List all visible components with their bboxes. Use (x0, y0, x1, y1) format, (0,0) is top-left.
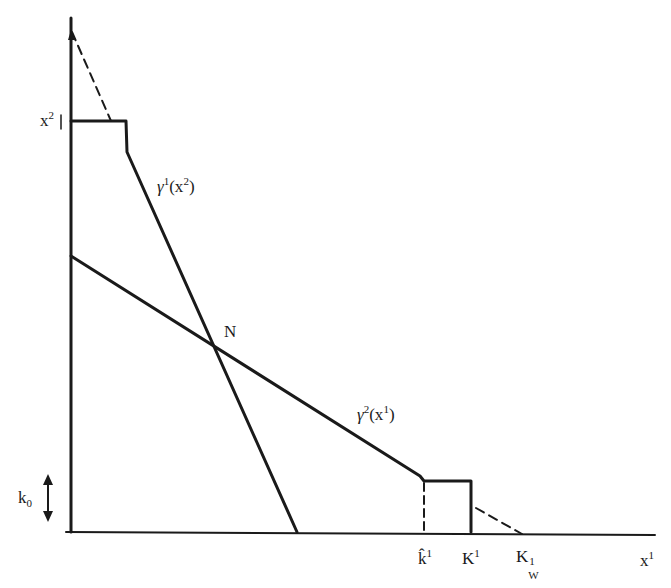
k0-label: k0 (18, 489, 32, 509)
gamma1-label: γ1(x2) (157, 176, 195, 195)
k0-arrow-head-down (43, 511, 53, 522)
intersection-label-N: N (224, 323, 236, 340)
khat-tick-label: k̂1 (418, 548, 432, 567)
gamma2-dashed-extension (476, 508, 522, 534)
x-axis-label: x1 (640, 550, 654, 569)
x-axis (66, 532, 655, 535)
gamma2-curve (71, 256, 471, 532)
K-tick-label: K1 (462, 548, 480, 567)
gamma2-label: γ2(x1) (357, 404, 395, 423)
gamma1-dashed-extension (72, 32, 111, 121)
diagram-canvas (0, 0, 671, 588)
k0-arrow-head-up (43, 474, 53, 485)
Kw-tick-label: K1W (516, 548, 538, 565)
y-axis-label: x2 (40, 110, 54, 129)
